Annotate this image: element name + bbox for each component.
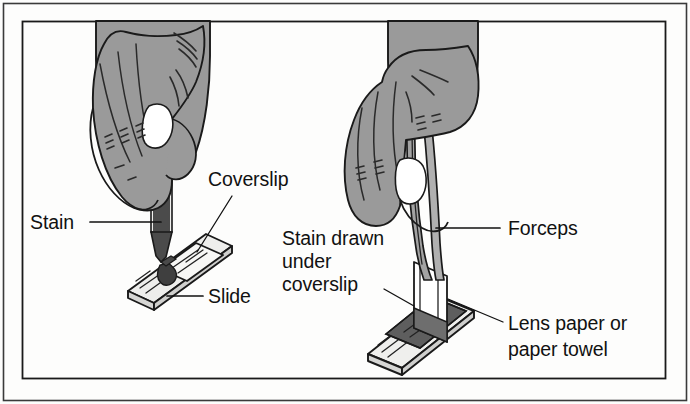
- label-stain: Stain: [30, 211, 74, 233]
- label-stain-drawn-line-3: coverslip: [282, 273, 358, 295]
- label-stain-drawn-line-2: under: [282, 250, 332, 272]
- label-forceps: Forceps: [508, 217, 578, 239]
- label-slide: Slide: [208, 285, 251, 307]
- label-coverslip: Coverslip: [208, 168, 289, 190]
- figure-root: Coverslip Stain Slide: [0, 0, 690, 404]
- staining-procedure-illustration: Coverslip Stain Slide: [0, 0, 690, 404]
- label-lens-paper-line-2: paper towel: [508, 338, 608, 360]
- label-lens-paper-line-1: Lens paper or: [508, 312, 628, 334]
- label-stain-drawn-line-1: Stain drawn: [282, 227, 384, 249]
